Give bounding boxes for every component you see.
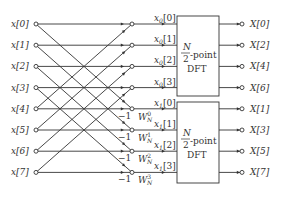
input-node: [34, 170, 38, 174]
output-node: [240, 22, 244, 26]
arrow-icon: [237, 44, 240, 47]
butterfly-node: [130, 22, 134, 26]
butterfly-node: [130, 43, 134, 47]
input-node: [34, 22, 38, 26]
output-label: X[7]: [249, 167, 270, 177]
arrow-icon: [121, 65, 124, 68]
butterfly-node: [130, 128, 134, 132]
output-label: X[0]: [249, 19, 270, 29]
input-label: x[6]: [11, 146, 29, 156]
fft-butterfly-diagram: N 2 -point DFT N 2 -point DFT x[0]x[1]x[…: [0, 0, 285, 197]
arrow-icon: [121, 86, 124, 89]
butterfly-node: [130, 149, 134, 153]
twiddle-factor-label: W1N: [138, 131, 153, 144]
twiddle-factor-label: W0N: [138, 110, 153, 123]
input-label: x[7]: [11, 167, 29, 177]
output-label: X[5]: [249, 146, 270, 156]
input-node: [34, 149, 38, 153]
input-node: [34, 64, 38, 68]
arrow-icon: [237, 107, 240, 110]
butterfly-node: [130, 107, 134, 111]
odd-sequence-label: x1[3]: [154, 161, 176, 172]
twiddle-factor-label: W2N: [138, 152, 153, 165]
svg-text:DFT: DFT: [187, 150, 206, 160]
odd-sequence-label: x1[1]: [154, 119, 176, 130]
svg-text:DFT: DFT: [187, 64, 206, 74]
input-node: [34, 107, 38, 111]
butterfly-node: [130, 64, 134, 68]
svg-text:2: 2: [183, 140, 189, 150]
arrow-icon: [121, 44, 124, 47]
twiddle-factor-label: W3N: [138, 173, 153, 186]
svg-text:-point: -point: [190, 50, 217, 60]
arrow-icon: [237, 150, 240, 153]
input-label: x[4]: [11, 104, 29, 114]
minus-one-label: −1: [118, 174, 131, 184]
svg-text:-point: -point: [190, 136, 217, 146]
output-node: [240, 128, 244, 132]
input-label: x[5]: [11, 125, 29, 135]
minus-one-label: −1: [118, 153, 131, 163]
output-node: [240, 64, 244, 68]
arrow-icon: [237, 128, 240, 131]
input-node: [34, 128, 38, 132]
even-sequence-label: x0[3]: [154, 77, 176, 88]
output-label: X[1]: [249, 104, 270, 114]
odd-sequence-label: x1[0]: [154, 98, 176, 109]
input-node: [34, 43, 38, 47]
minus-one-label: −1: [118, 132, 131, 142]
output-node: [240, 43, 244, 47]
arrow-icon: [237, 65, 240, 68]
butterfly-node: [130, 170, 134, 174]
output-node: [240, 170, 244, 174]
svg-text:2: 2: [183, 54, 189, 64]
output-node: [240, 86, 244, 90]
output-node: [240, 149, 244, 153]
output-label: X[4]: [249, 61, 270, 71]
output-label: X[2]: [249, 40, 270, 50]
arrow-icon: [237, 22, 240, 25]
output-node: [240, 107, 244, 111]
input-label: x[3]: [11, 83, 29, 93]
output-label: X[6]: [249, 83, 270, 93]
butterfly-node: [130, 86, 134, 90]
input-label: x[1]: [11, 40, 29, 50]
minus-one-label: −1: [118, 111, 131, 121]
arrow-icon: [237, 86, 240, 89]
arrow-icon: [237, 171, 240, 174]
input-label: x[0]: [11, 19, 29, 29]
input-label: x[2]: [11, 61, 29, 71]
odd-sequence-label: x1[2]: [154, 140, 176, 151]
even-sequence-label: x0[0]: [154, 13, 176, 24]
even-sequence-label: x0[2]: [154, 55, 176, 66]
even-sequence-label: x0[1]: [154, 34, 176, 45]
arrow-icon: [121, 22, 124, 25]
input-node: [34, 86, 38, 90]
output-label: X[3]: [249, 125, 270, 135]
